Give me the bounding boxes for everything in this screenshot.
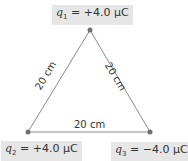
charge-q1-dot — [88, 28, 93, 33]
charge-q3-dot — [148, 130, 153, 135]
charge-q3-label: q3 = −4.0 μC — [111, 142, 188, 161]
side-bottom-label: 20 cm — [74, 119, 105, 130]
symbol: q — [56, 6, 63, 19]
symbol: q — [5, 142, 12, 155]
charge-q2-label: q2 = +4.0 μC — [1, 141, 82, 161]
subscript: 2 — [12, 149, 16, 157]
symbol: q — [115, 143, 122, 156]
charge-value: = +4.0 μC — [20, 142, 78, 155]
subscript: 1 — [63, 13, 67, 21]
charge-value: = +4.0 μC — [71, 6, 129, 19]
charge-value: = −4.0 μC — [130, 143, 188, 156]
subscript: 3 — [122, 150, 126, 158]
charge-q1-label: q1 = +4.0 μC — [52, 5, 133, 25]
charge-q2-dot — [26, 130, 31, 135]
